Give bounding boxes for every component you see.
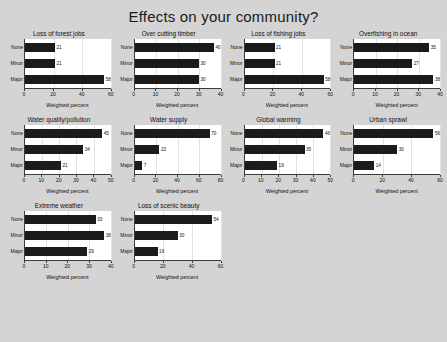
bar-row: None35	[354, 43, 440, 52]
x-axis-title: Weighted percent	[134, 274, 221, 281]
category-label: Minor	[230, 145, 243, 154]
bar	[354, 59, 412, 68]
bar-value-label: 14	[376, 163, 381, 168]
bar	[25, 59, 55, 68]
x-axis-title: Weighted percent	[134, 102, 221, 109]
axis-tick-label: 20	[160, 263, 166, 270]
axis-tick-label: 10	[372, 91, 378, 98]
bar-row: None21	[25, 43, 111, 52]
panel-title: Overfishing in ocean	[336, 30, 440, 39]
gridline	[221, 211, 222, 260]
axis-tick-label: 60	[218, 263, 224, 270]
axis-tick-label: 30	[416, 91, 422, 98]
axis-tick-label: 20	[174, 91, 180, 98]
plot-region: None56Minor30Major14	[353, 125, 440, 175]
bar-value-label: 58	[325, 77, 330, 82]
gridline	[440, 39, 441, 88]
bar-row: None56	[354, 129, 440, 138]
x-axis: 01020304050	[24, 175, 111, 188]
x-axis-title: Weighted percent	[24, 274, 111, 281]
bar	[354, 129, 433, 138]
bar	[25, 75, 104, 84]
category-label: Major	[340, 75, 353, 84]
category-label: Minor	[10, 231, 23, 240]
axis-tick-label: 40	[218, 91, 224, 98]
gridline	[440, 125, 441, 174]
category-label: None	[11, 43, 23, 52]
bar	[25, 43, 55, 52]
category-label: Major	[10, 247, 23, 256]
bar-row: None46	[245, 129, 331, 138]
panel-title: Over cutting timber	[117, 30, 221, 39]
bar-value-label: 34	[85, 147, 90, 152]
axis-tick-label: 30	[86, 263, 92, 270]
axis-tick-label: 0	[242, 91, 245, 98]
axis-tick-label: 60	[327, 91, 333, 98]
bar-row: Major29	[25, 247, 111, 256]
axis-tick-label: 20	[270, 91, 276, 98]
category-label: Major	[230, 161, 243, 170]
x-axis-title: Weighted percent	[353, 102, 440, 109]
bar	[245, 59, 275, 68]
category-label: None	[340, 43, 352, 52]
bar-value-label: 21	[57, 45, 62, 50]
chart-panel: Water supplyNone70Minor23Major7020406080…	[114, 115, 224, 201]
x-axis: 0204060	[353, 175, 440, 188]
page-title: Effects on your community?	[0, 0, 447, 29]
category-label: Major	[10, 161, 23, 170]
bar-value-label: 58	[106, 77, 111, 82]
category-label: None	[340, 129, 352, 138]
panel-title: Loss of fishing jobs	[227, 30, 331, 39]
bar-value-label: 56	[435, 131, 440, 136]
bar-row: Major14	[354, 161, 440, 170]
plot-region: None33Minor38Major29	[24, 211, 111, 261]
category-label: None	[11, 215, 23, 224]
gridline	[111, 125, 112, 174]
plot-region: None35Minor27Major38	[353, 39, 440, 89]
category-label: Minor	[120, 59, 133, 68]
axis-tick-label: 60	[437, 177, 443, 184]
bar	[135, 145, 160, 154]
plot-region: None21Minor21Major58	[24, 39, 111, 89]
chart-panel: Overfishing in oceanNone35Minor27Major38…	[333, 29, 443, 115]
axis-tick-label: 0	[23, 263, 26, 270]
category-label: None	[11, 129, 23, 138]
bar-row: Minor30	[135, 59, 221, 68]
bar-row: Minor34	[25, 145, 111, 154]
bar	[135, 215, 212, 224]
bar-row: None54	[135, 215, 221, 224]
x-axis: 01020304050	[244, 175, 331, 188]
bar-value-label: 70	[211, 131, 216, 136]
x-axis-title: Weighted percent	[244, 188, 331, 195]
bar	[245, 129, 324, 138]
bar-value-label: 40	[215, 45, 220, 50]
category-label: Major	[10, 75, 23, 84]
bar	[25, 129, 102, 138]
plot-region: None70Minor23Major7	[134, 125, 221, 175]
bar-row: None70	[135, 129, 221, 138]
bar	[25, 215, 96, 224]
bar	[245, 145, 305, 154]
axis-tick-label: 0	[132, 263, 135, 270]
bar-value-label: 38	[435, 77, 440, 82]
axis-tick-label: 40	[174, 177, 180, 184]
bar-row: Major38	[354, 75, 440, 84]
category-label: None	[121, 43, 133, 52]
category-label: Major	[120, 247, 133, 256]
category-label: Minor	[10, 59, 23, 68]
x-axis-title: Weighted percent	[134, 188, 221, 195]
bar-value-label: 35	[306, 147, 311, 152]
axis-tick-label: 60	[196, 177, 202, 184]
bar-value-label: 29	[89, 249, 94, 254]
chart-panel: Over cutting timberNone40Minor30Major300…	[114, 29, 224, 115]
bar-row: Major58	[245, 75, 331, 84]
bar-row: Minor23	[135, 145, 221, 154]
plot-region: None54Minor30Major16	[134, 211, 221, 261]
bar-value-label: 33	[97, 217, 102, 222]
bar	[135, 161, 143, 170]
bar	[135, 75, 199, 84]
panel-title: Water quality/pollution	[7, 116, 111, 125]
panel-title: Global warming	[227, 116, 331, 125]
gridline	[221, 125, 222, 174]
axis-tick-label: 0	[23, 177, 26, 184]
